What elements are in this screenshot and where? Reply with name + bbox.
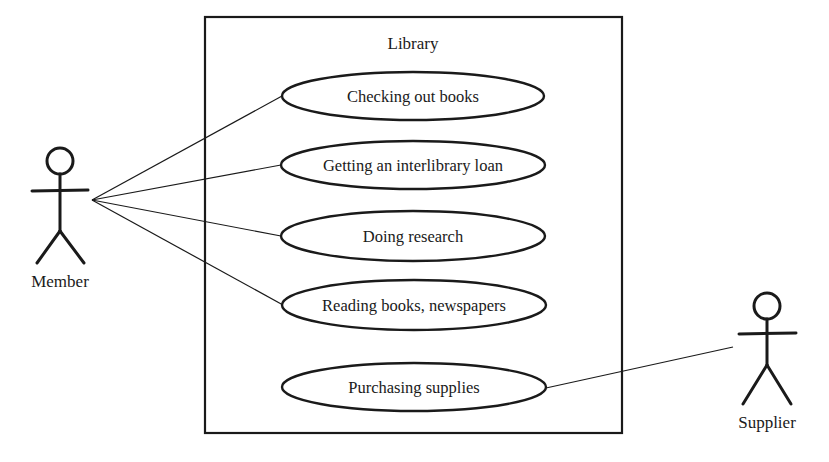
- stick-figure-icon: [739, 293, 796, 404]
- association-member-reading[interactable]: [92, 200, 283, 305]
- use-case-label: Doing research: [363, 227, 464, 246]
- actor-arms: [32, 190, 88, 191]
- actor-head: [47, 148, 73, 174]
- actor-right-leg: [60, 231, 84, 263]
- association-supplier-purchasing[interactable]: [546, 347, 733, 388]
- use-case-diagram: Library Checking out books Getting an in…: [0, 0, 829, 462]
- actor-left-leg: [37, 231, 60, 263]
- actor-head: [754, 293, 780, 319]
- actor-right-leg: [767, 365, 791, 404]
- actor-member[interactable]: Member: [31, 148, 89, 291]
- member-associations: [92, 96, 283, 305]
- stick-figure-icon: [32, 148, 88, 263]
- actor-label: Supplier: [738, 413, 796, 432]
- use-case-reading-books[interactable]: Reading books, newspapers: [282, 280, 546, 330]
- use-case-doing-research[interactable]: Doing research: [281, 211, 545, 261]
- use-case-label: Getting an interlibrary loan: [323, 156, 503, 175]
- system-title: Library: [388, 34, 439, 53]
- actor-supplier[interactable]: Supplier: [738, 293, 796, 432]
- association-member-interlibrary-loan[interactable]: [92, 165, 281, 200]
- association-member-doing-research[interactable]: [92, 200, 281, 236]
- actor-arms: [739, 333, 796, 334]
- association-member-checking-out[interactable]: [92, 96, 282, 200]
- use-case-interlibrary-loan[interactable]: Getting an interlibrary loan: [281, 141, 545, 189]
- actor-left-leg: [743, 365, 767, 404]
- use-case-label: Purchasing supplies: [348, 378, 480, 397]
- use-case-purchasing-supplies[interactable]: Purchasing supplies: [282, 363, 546, 411]
- use-case-label: Reading books, newspapers: [322, 296, 506, 315]
- use-case-label: Checking out books: [347, 87, 479, 106]
- use-case-checking-out-books[interactable]: Checking out books: [282, 72, 544, 120]
- actor-label: Member: [31, 272, 89, 291]
